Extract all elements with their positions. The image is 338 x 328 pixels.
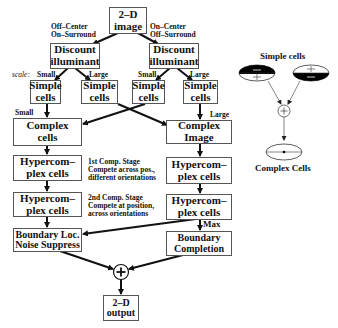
simple-cells-box-3: Simple cells bbox=[132, 80, 165, 104]
inset-title: Simple cells bbox=[260, 51, 305, 61]
input-line2: image bbox=[114, 21, 142, 33]
small-label: Small bbox=[15, 109, 33, 117]
left-path-label: Off–Center On–Surround bbox=[51, 23, 96, 39]
simple-cells-box-1: Simple cells bbox=[30, 80, 61, 104]
hypercomplex-2-right-box: Hypercom– plex cells bbox=[166, 194, 232, 220]
discount-illuminant-left: Discount illuminant bbox=[50, 43, 100, 69]
large-label: Large bbox=[210, 111, 229, 119]
inset-diagram bbox=[239, 65, 329, 160]
simple-scale-label-1: Small bbox=[37, 71, 55, 79]
stage1-note: 1st Comp. Stage Compete across pos., dif… bbox=[88, 158, 156, 182]
scale-label: scale: bbox=[12, 71, 30, 79]
right-path-label: On–Center Off–Surround bbox=[150, 23, 196, 39]
hypercomplex-1-right-box: Hypercom– plex cells bbox=[166, 157, 232, 184]
boundary-completion-box: Boundary Completion bbox=[166, 231, 232, 256]
simple-scale-label-4: Large bbox=[190, 71, 209, 79]
stage2-note: 2nd Comp. Stage Compete at position, acr… bbox=[88, 194, 154, 218]
simple-cells-box-4: Simple cells bbox=[183, 80, 218, 104]
boundary-localization-box: Boundary Loc. Noise Suppress bbox=[13, 228, 82, 252]
hypercomplex-2-left-box: Hypercom– plex cells bbox=[13, 192, 82, 217]
complex-cells-box: Complex cells bbox=[13, 118, 82, 146]
sum-node bbox=[114, 265, 129, 280]
max-label: Max bbox=[203, 220, 221, 229]
complex-image-box: Complex Image bbox=[166, 120, 232, 144]
output-box: 2–D output bbox=[103, 295, 139, 321]
simple-scale-label-3: Small bbox=[138, 71, 156, 79]
simple-scale-label-2: Large bbox=[89, 71, 108, 79]
inset-bottom-label: Complex Cells bbox=[255, 163, 311, 173]
input-line1: 2–D bbox=[119, 9, 138, 21]
discount-illuminant-right: Discount illuminant bbox=[149, 43, 199, 69]
hypercomplex-1-left-box: Hypercom– plex cells bbox=[13, 155, 82, 181]
input-image-box: 2–D image bbox=[109, 7, 147, 34]
simple-cells-box-2: Simple cells bbox=[81, 80, 118, 104]
